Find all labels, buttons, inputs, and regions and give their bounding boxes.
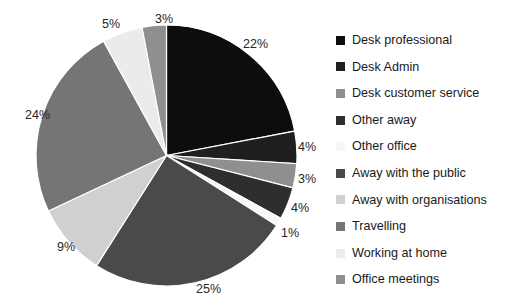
legend-swatch-icon [336, 62, 345, 71]
legend-item: Other away [336, 107, 524, 134]
legend-swatch-icon [336, 195, 345, 204]
legend-item-label: Away with organisations [352, 194, 487, 207]
pie-chart-figure: 22%4%3%4%1%25%9%24%5%3% Desk professiona… [0, 0, 524, 308]
legend-swatch-icon [336, 36, 345, 45]
legend-item-label: Travelling [352, 220, 406, 233]
legend-item-label: Desk Admin [352, 61, 419, 74]
legend-item-label: Desk customer service [352, 87, 479, 100]
pie-percent-label: 9% [57, 241, 75, 254]
legend-swatch-icon [336, 142, 345, 151]
legend-item-label: Working at home [352, 247, 447, 260]
legend-item: Office meetings [336, 266, 524, 293]
pie-percent-label: 3% [298, 173, 316, 186]
pie-percent-label: 5% [102, 18, 120, 31]
pie-percent-label: 25% [196, 283, 221, 296]
legend-item: Other office [336, 133, 524, 160]
legend-swatch-icon [336, 169, 345, 178]
legend-item: Travelling [336, 213, 524, 240]
legend-swatch-icon [336, 89, 345, 98]
pie-percent-label: 22% [243, 38, 268, 51]
pie-percent-label: 1% [281, 227, 299, 240]
pie-percent-label: 4% [291, 202, 309, 215]
legend-item: Away with organisations [336, 187, 524, 214]
legend-swatch-icon [336, 275, 345, 284]
legend-item: Working at home [336, 240, 524, 267]
legend-item-label: Desk professional [352, 34, 452, 47]
legend-item: Away with the public [336, 160, 524, 187]
pie-percent-label: 4% [298, 141, 316, 154]
pie-percent-label: 3% [155, 13, 173, 26]
pie-percent-label: 24% [25, 109, 50, 122]
legend-item-label: Office meetings [352, 273, 439, 286]
legend-item-label: Other office [352, 140, 417, 153]
legend-item-label: Away with the public [352, 167, 466, 180]
legend-item: Desk professional [336, 27, 524, 54]
legend-swatch-icon [336, 249, 345, 258]
legend-swatch-icon [336, 116, 345, 125]
legend-item: Desk Admin [336, 54, 524, 81]
pie-chart-plot-area: 22%4%3%4%1%25%9%24%5%3% [0, 0, 330, 308]
legend-item: Desk customer service [336, 80, 524, 107]
pie-chart-svg [0, 0, 330, 308]
chart-legend: Desk professionalDesk AdminDesk customer… [336, 27, 524, 293]
legend-item-label: Other away [352, 114, 416, 127]
legend-swatch-icon [336, 222, 345, 231]
